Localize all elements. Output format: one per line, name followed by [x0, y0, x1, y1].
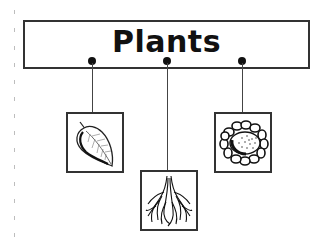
connector-line-flower — [242, 63, 243, 113]
leaf-box — [66, 112, 124, 173]
diagram-title: Plants — [25, 24, 308, 59]
flower-box — [214, 112, 272, 173]
leaf-icon — [68, 114, 122, 171]
connector-line-root — [167, 63, 168, 171]
roots-icon — [142, 172, 196, 229]
margin-tick-marks — [14, 0, 16, 251]
connector-line-leaf — [92, 63, 93, 113]
flower-icon — [216, 114, 270, 171]
root-box — [140, 170, 198, 231]
